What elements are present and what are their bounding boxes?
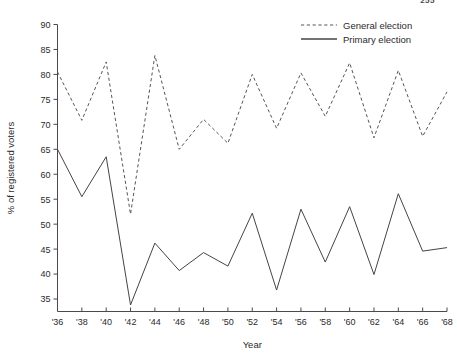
x-tick-label: '66 (417, 317, 429, 327)
x-tick-label: '44 (149, 317, 161, 327)
y-tick-label: 75 (40, 95, 50, 105)
x-tick-label: '46 (173, 317, 185, 327)
y-tick-label: 40 (40, 269, 50, 279)
x-tick-label: '62 (368, 317, 380, 327)
y-tick-label: 45 (40, 245, 50, 255)
y-tick-label: 85 (40, 45, 50, 55)
y-axis-ticks: 354045505560657075808590 (40, 20, 57, 305)
x-tick-label: '52 (246, 317, 258, 327)
x-tick-label: '60 (344, 317, 356, 327)
chart-legend: General electionPrimary election (301, 20, 412, 45)
y-tick-label: 70 (40, 120, 50, 130)
x-tick-label: '40 (100, 317, 112, 327)
y-tick-label: 80 (40, 70, 50, 80)
y-tick-label: 55 (40, 195, 50, 205)
x-tick-label: '68 (441, 317, 453, 327)
x-tick-label: '42 (125, 317, 137, 327)
series-line-general-election (58, 55, 448, 214)
axis-lines (58, 25, 448, 312)
x-tick-label: '36 (52, 317, 64, 327)
x-tick-label: '58 (319, 317, 331, 327)
x-tick-label: '64 (392, 317, 404, 327)
x-tick-label: '56 (295, 317, 307, 327)
x-axis-ticks: '36'38'40'42'44'46'48'50'52'54'56'58'60'… (52, 308, 453, 327)
series-line-primary-election (58, 149, 448, 305)
y-tick-label: 60 (40, 170, 50, 180)
voter-turnout-line-chart: 354045505560657075808590 '36'38'40'42'44… (0, 0, 457, 364)
x-tick-label: '38 (76, 317, 88, 327)
y-axis-title: % of registered voters (5, 122, 16, 215)
page-number: 255 (420, 0, 435, 5)
x-tick-label: '50 (222, 317, 234, 327)
y-tick-label: 65 (40, 145, 50, 155)
legend-label: General election (343, 20, 412, 31)
legend-label: Primary election (343, 34, 411, 45)
x-tick-label: '54 (271, 317, 283, 327)
y-tick-label: 90 (40, 20, 50, 30)
y-tick-label: 50 (40, 220, 50, 230)
x-tick-label: '48 (198, 317, 210, 327)
y-tick-label: 35 (40, 294, 50, 304)
chart-figure: 255 354045505560657075808590 '36'38'40'4… (0, 0, 457, 364)
x-axis-title: Year (243, 339, 262, 350)
